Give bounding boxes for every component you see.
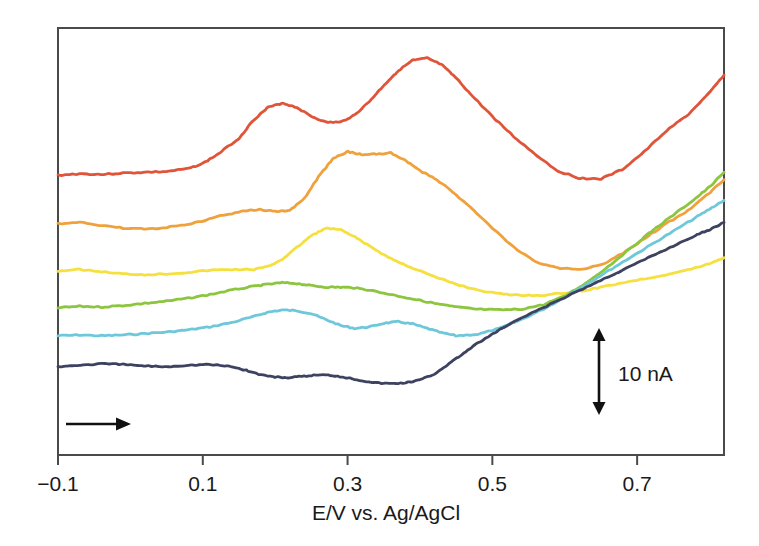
x-axis-tick-label: 0.3 bbox=[333, 472, 362, 495]
x-axis-tick-labels: −0.10.10.30.50.7 bbox=[37, 472, 651, 495]
x-axis-tick-label: 0.7 bbox=[623, 472, 652, 495]
voltammogram-figure: −0.10.10.30.50.7 10 nA E/V vs. Ag/AgCl bbox=[0, 0, 759, 546]
x-axis-tick-label: −0.1 bbox=[37, 472, 78, 495]
plot-frame bbox=[58, 28, 724, 455]
x-axis-ticks bbox=[58, 455, 637, 465]
scale-bar-label: 10 nA bbox=[618, 362, 673, 385]
x-axis-tick-label: 0.1 bbox=[188, 472, 217, 495]
chart-canvas: −0.10.10.30.50.7 10 nA E/V vs. Ag/AgCl bbox=[0, 0, 759, 546]
x-axis-tick-label: 0.5 bbox=[478, 472, 507, 495]
x-axis-title: E/V vs. Ag/AgCl bbox=[312, 501, 460, 524]
